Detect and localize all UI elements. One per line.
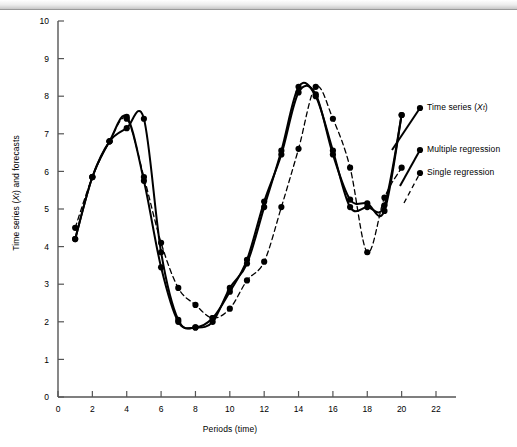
data-point [381, 195, 387, 201]
y-axis-tick-label: 1 [44, 355, 49, 365]
data-point [330, 116, 336, 122]
legend-marker-1 [417, 105, 423, 111]
data-point [399, 165, 405, 171]
data-point [192, 324, 198, 330]
y-axis-tick-label: 3 [44, 279, 49, 289]
x-axis-tick-label: 12 [259, 404, 269, 414]
data-point [124, 116, 130, 122]
data-point [175, 285, 181, 291]
series-1 [72, 83, 405, 331]
data-point [227, 306, 233, 312]
y-axis-tick-label: 4 [44, 242, 49, 252]
data-point [364, 200, 370, 206]
y-axis-tick-label: 9 [44, 54, 49, 64]
data-point [261, 198, 267, 204]
x-axis-tick-label: 0 [56, 404, 61, 414]
legend-item-time-series[interactable]: Time series (Xt) [427, 102, 488, 112]
x-axis-tick-label: 22 [431, 404, 441, 414]
legend-item-multiple-regression[interactable]: Multiple regression [427, 144, 500, 154]
x-axis-tick-label: 6 [159, 404, 164, 414]
y-axis-label-post: ) and forecasts [11, 135, 21, 193]
data-point [278, 204, 284, 210]
data-point [244, 257, 250, 263]
data-point [313, 84, 319, 90]
y-axis-tick-label: 8 [44, 91, 49, 101]
figure-container: 0123456789100246810121416182022 Time ser… [0, 0, 517, 447]
y-axis-tick-label: 5 [44, 204, 49, 214]
x-axis-tick-label: 20 [397, 404, 407, 414]
x-axis-tick-label: 10 [225, 404, 235, 414]
data-point [313, 91, 319, 97]
legend-label-post: ) [485, 102, 488, 112]
data-point [347, 165, 353, 171]
data-point [227, 289, 233, 295]
legend-item-single-regression[interactable]: Single regression [427, 167, 494, 177]
legend-label-text: Single regression [427, 167, 494, 177]
series-3 [72, 84, 405, 321]
y-axis-label-pre: Time series ( [11, 201, 21, 251]
x-axis-tick-label: 8 [193, 404, 198, 414]
x-axis-label: Periods (time) [0, 424, 460, 434]
data-point [158, 249, 164, 255]
axes-group: 0123456789100246810121416182022 [40, 16, 456, 414]
data-point [295, 146, 301, 152]
data-point [399, 112, 405, 118]
x-axis-tick-label: 14 [294, 404, 304, 414]
y-axis-tick-label: 10 [40, 16, 50, 26]
y-axis-tick-label: 7 [44, 129, 49, 139]
legend-label-text: Time series ( [427, 102, 477, 112]
data-point [192, 302, 198, 308]
legend-label-text: Multiple regression [427, 144, 500, 154]
data-point [295, 89, 301, 95]
y-axis-label: Time series (Xt) and forecasts [11, 103, 21, 283]
data-point [278, 151, 284, 157]
data-point [210, 315, 216, 321]
data-point [72, 236, 78, 242]
y-axis-label-sub: t [13, 193, 20, 195]
data-point [261, 259, 267, 265]
data-point [124, 125, 130, 131]
series-group [72, 83, 405, 331]
legend-line-1 [392, 108, 420, 150]
chart-canvas: 0123456789100246810121416182022 [0, 0, 517, 447]
data-point [141, 116, 147, 122]
x-axis-tick-label: 4 [124, 404, 129, 414]
data-point [175, 317, 181, 323]
data-point [72, 225, 78, 231]
legend-marker-2 [417, 147, 423, 153]
y-axis-tick-label: 2 [44, 317, 49, 327]
legend-line-3 [404, 173, 420, 203]
data-point [141, 174, 147, 180]
legend-group [392, 105, 423, 203]
data-point [347, 204, 353, 210]
data-point [347, 197, 353, 203]
data-point [381, 208, 387, 214]
data-point [244, 277, 250, 283]
data-point [364, 249, 370, 255]
data-point [330, 151, 336, 157]
y-axis-tick-label: 6 [44, 167, 49, 177]
x-axis-tick-label: 16 [328, 404, 338, 414]
data-point [158, 240, 164, 246]
data-point [106, 138, 112, 144]
x-axis-tick-label: 18 [363, 404, 373, 414]
data-point [89, 174, 95, 180]
x-axis-tick-label: 2 [90, 404, 95, 414]
legend-marker-3 [417, 170, 423, 176]
y-axis-label-var: X [11, 195, 21, 201]
y-axis-tick-label: 0 [44, 392, 49, 402]
